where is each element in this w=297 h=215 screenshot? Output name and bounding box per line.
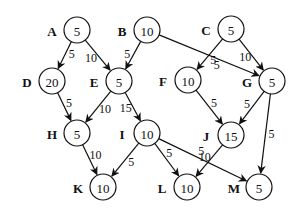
edge-weight-label: 5 (69, 47, 75, 61)
edge-weight-label: 10 (99, 102, 111, 116)
node-name: K (73, 181, 84, 196)
edge-i-l: 5 (155, 143, 179, 175)
node-value: 5 (116, 75, 123, 90)
node-a: 5A (47, 17, 90, 43)
node-e: 5E (90, 68, 132, 94)
node-name: H (47, 127, 57, 142)
node-b: 10B (118, 17, 160, 43)
edge-i-k: 5 (112, 143, 139, 176)
node-l: 10L (158, 174, 200, 200)
node-d: 20D (22, 68, 65, 94)
node-k: 10K (73, 174, 116, 200)
node-name: F (159, 74, 167, 89)
edge-b-e: 5 (124, 41, 141, 68)
edge-weight-label: 5 (269, 127, 275, 141)
edges-layer: 51055510510155551055510 (58, 35, 275, 181)
node-value: 5 (228, 23, 235, 38)
edge-arrow (196, 90, 222, 124)
edge-weight-label: 5 (244, 97, 250, 111)
edge-weight-label: 10 (239, 50, 251, 64)
edge-g-m: 5 (261, 94, 275, 173)
edge-weight-label: 5 (124, 47, 130, 61)
edge-d-h: 5 (58, 93, 72, 121)
node-name: C (201, 23, 210, 38)
edge-weight-label: 5 (210, 53, 216, 67)
node-value: 10 (182, 74, 195, 89)
node-name: M (228, 181, 240, 196)
edge-weight-label: 10 (89, 148, 101, 162)
node-value: 10 (141, 24, 154, 39)
edge-weight-label: 10 (199, 150, 211, 164)
edge-e-h: 10 (86, 91, 111, 122)
edge-weight-label: 10 (85, 51, 97, 65)
edge-h-k: 10 (83, 145, 102, 175)
node-c: 5C (201, 16, 244, 42)
edge-c-g: 10 (239, 39, 263, 70)
node-value: 5 (74, 127, 81, 142)
node-value: 5 (256, 181, 263, 196)
node-value: 10 (141, 127, 154, 142)
edge-weight-label: 5 (166, 146, 172, 160)
node-name: E (90, 75, 99, 90)
node-value: 10 (181, 181, 194, 196)
edge-g-j: 5 (239, 91, 264, 123)
edge-a-e: 10 (85, 40, 110, 70)
edge-j-l: 10 (196, 145, 223, 176)
node-m: 5M (228, 174, 272, 200)
node-name: D (22, 75, 31, 90)
edge-a-d: 5 (58, 42, 75, 69)
node-name: B (118, 24, 127, 39)
node-i: 10I (119, 120, 160, 146)
edge-weight-label: 5 (211, 96, 217, 110)
edge-f-j: 5 (196, 90, 222, 124)
edge-weight-label: 5 (66, 96, 72, 110)
node-value: 15 (225, 129, 238, 144)
node-value: 5 (269, 75, 276, 90)
task-graph: 51055510510155551055510 5A10B5C20D5E10F5… (0, 0, 297, 215)
node-name: I (119, 127, 124, 142)
edge-arrow (112, 143, 139, 176)
node-j: 15J (203, 122, 244, 148)
node-f: 10F (159, 67, 201, 93)
node-value: 20 (46, 75, 59, 90)
node-name: A (47, 24, 57, 39)
edge-e-i: 15 (120, 92, 141, 120)
node-value: 10 (97, 181, 110, 196)
edge-weight-label: 15 (120, 101, 132, 115)
node-name: G (242, 75, 252, 90)
node-name: J (203, 129, 210, 144)
node-name: L (158, 181, 167, 196)
node-h: 5H (47, 120, 90, 146)
node-value: 5 (74, 24, 81, 39)
edge-weight-label: 5 (128, 155, 134, 169)
